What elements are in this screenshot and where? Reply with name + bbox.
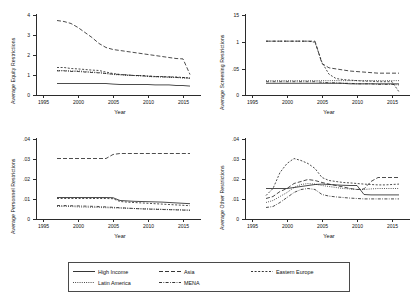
legend-item-mena: MENA <box>159 279 251 286</box>
panel4-series <box>266 159 399 208</box>
series-asia <box>57 154 190 159</box>
series-eastern-europe <box>57 68 190 78</box>
figure-root: Average Equity Restrictions 4 3 2 1 0 19… <box>0 0 418 300</box>
series-mena <box>57 206 190 211</box>
series-eastern-europe <box>57 199 190 206</box>
series-high-income <box>57 84 190 87</box>
panel-personnel-restrictions: Average Personnel Restrictions .04 .03 .… <box>0 128 209 252</box>
legend-key-solid-icon <box>73 268 95 275</box>
series-asia <box>266 41 399 73</box>
legend-key-dashed-long-icon <box>159 268 181 275</box>
legend-key-dash-dot-icon <box>159 279 181 286</box>
legend-item-asia: Asia <box>159 268 251 275</box>
series-eastern-europe <box>266 159 399 196</box>
panel-equity-restrictions: Average Equity Restrictions 4 3 2 1 0 19… <box>0 4 209 128</box>
panel1-plot-area <box>0 4 209 128</box>
series-asia <box>266 178 399 199</box>
series-mena <box>57 71 190 78</box>
legend-item-high-income: High Income <box>73 268 159 275</box>
legend-key-dotted-icon <box>73 279 95 286</box>
series-mena <box>266 189 399 208</box>
legend-label-asia: Asia <box>184 269 195 275</box>
panel3-plot-area <box>0 128 209 252</box>
panel1-series <box>57 21 190 87</box>
legend-label-mena: MENA <box>184 280 200 286</box>
panel4-plot-area <box>209 128 418 252</box>
legend-key-dashed-short-icon <box>251 268 273 275</box>
legend-item-eastern-europe: Eastern Europe <box>251 268 343 275</box>
panel2-plot-area <box>209 4 418 128</box>
panel-other-restrictions: Average Other Restrictions .04 .03 .02 .… <box>209 128 418 252</box>
panel3-series <box>57 154 190 211</box>
legend-label-latin-america: Latin America <box>98 280 131 286</box>
series-high-income <box>266 83 399 84</box>
legend-label-eastern-europe: Eastern Europe <box>276 269 313 275</box>
panel2-series <box>266 41 399 92</box>
legend-item-latin-america: Latin America <box>73 279 159 286</box>
series-asia <box>57 21 190 75</box>
series-latin-america <box>266 184 399 203</box>
legend: High Income Asia Eastern Europe Latin Am… <box>68 262 350 292</box>
panel-screening-restrictions: Average Screening Restrictions 15 1 .05 … <box>209 4 418 128</box>
legend-label-high-income: High Income <box>98 269 128 275</box>
